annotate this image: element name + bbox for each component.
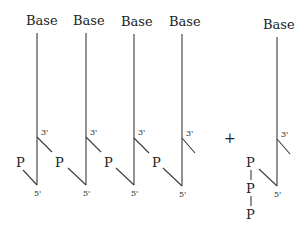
phosphate-label: P (152, 155, 161, 170)
base-label: Base (169, 14, 201, 29)
five-prime-label: 5' (131, 189, 138, 198)
five-prime-label: 5' (34, 189, 41, 198)
nucleotide-4: Base 3' P 5' (152, 14, 201, 199)
five-prime-label: 5' (83, 189, 90, 198)
phosphate-label-2: P (246, 181, 255, 196)
nucleotide-3: Base 3' P 5' (104, 14, 153, 198)
nucleotide-2: Base 3' P 5' (55, 13, 105, 198)
phosphate-label: P (104, 155, 113, 170)
phosphate-label-3: P (246, 207, 255, 222)
plus-operator: + (224, 130, 236, 146)
nucleotide-chain-diagram: Base 3' P 5' Base 3' P 5' Base 3' P 5' B… (0, 0, 307, 229)
three-prime-label: 3' (186, 129, 193, 138)
nucleotide-1: Base 3' P 5' (16, 13, 58, 198)
three-prime-label: 3' (138, 128, 145, 137)
three-prime-label: 3' (281, 130, 288, 139)
three-prime-bond (37, 137, 52, 152)
five-prime-bond (68, 168, 86, 185)
base-label: Base (73, 13, 105, 28)
three-prime-bond (86, 137, 101, 152)
base-label: Base (121, 14, 153, 29)
five-prime-bond (23, 170, 37, 185)
three-prime-bond (134, 138, 149, 153)
five-prime-label: 5' (179, 190, 186, 199)
phosphate-label-1: P (246, 155, 255, 170)
three-prime-bond (277, 139, 290, 154)
five-prime-bond (116, 168, 134, 185)
phosphate-label: P (55, 155, 64, 170)
five-prime-bond (259, 169, 277, 186)
five-prime-bond (163, 168, 182, 186)
three-prime-label: 3' (41, 128, 48, 137)
triphosphate-nucleotide: Base 3' 5' P P P (246, 17, 295, 222)
phosphate-label: P (16, 155, 25, 170)
base-label: Base (26, 13, 58, 28)
three-prime-bond (182, 138, 195, 153)
three-prime-label: 3' (90, 128, 97, 137)
base-label: Base (263, 17, 295, 32)
five-prime-label: 5' (274, 190, 281, 199)
